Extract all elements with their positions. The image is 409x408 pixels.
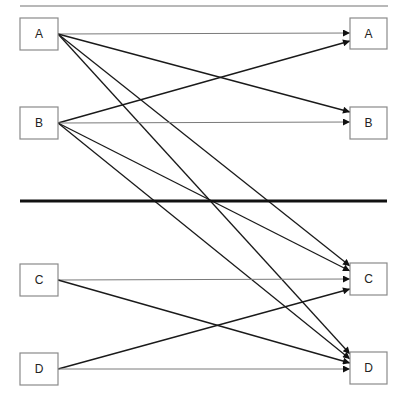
mapping-diagram: ABCD ABCD — [0, 0, 409, 408]
edge-b-to-b — [58, 122, 350, 123]
node-label: A — [364, 27, 372, 41]
edge-a-to-c — [58, 34, 350, 266]
left-node-c: C — [20, 264, 58, 296]
right-node-d: D — [350, 352, 387, 384]
edge-a-to-a — [58, 33, 350, 34]
node-label: C — [364, 272, 373, 286]
edge-a-to-b — [58, 34, 350, 112]
node-label: B — [35, 116, 43, 130]
node-label: A — [35, 27, 43, 41]
edge-d-to-c — [58, 289, 350, 369]
right-node-b: B — [350, 107, 387, 139]
node-label: B — [364, 116, 372, 130]
edge-b-to-c — [58, 123, 350, 271]
node-label: D — [364, 361, 373, 375]
left-node-d: D — [20, 353, 58, 385]
edge-c-to-c — [58, 279, 350, 280]
edge-c-to-d — [58, 280, 350, 363]
left-node-a: A — [20, 18, 58, 50]
right-node-a: A — [350, 18, 387, 49]
node-label: C — [35, 273, 44, 287]
right-node-c: C — [350, 263, 387, 295]
left-node-b: B — [20, 107, 58, 139]
node-label: D — [35, 362, 44, 376]
edge-b-to-d — [58, 123, 350, 359]
